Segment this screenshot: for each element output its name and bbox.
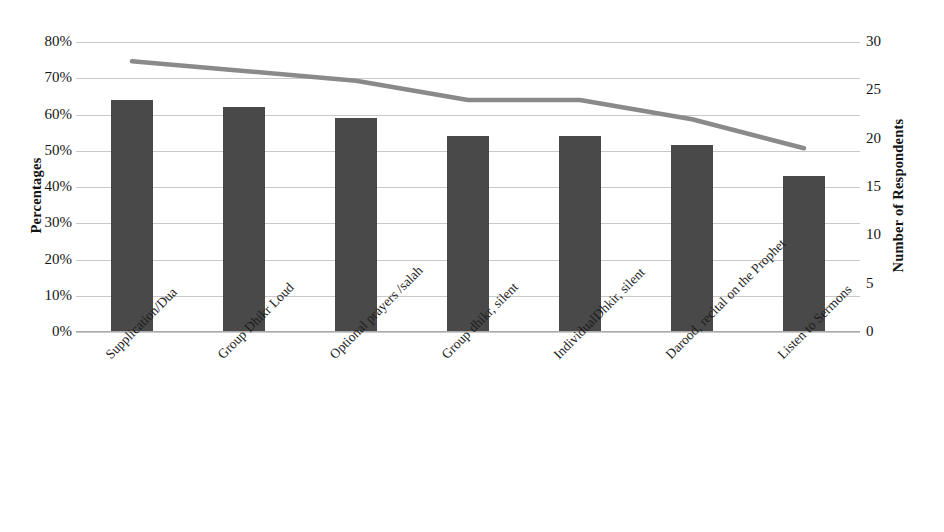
x-axis-category-label: Darood, recital on the Prophet [663,237,788,362]
x-axis-category-label: Group dhikr, silent [439,280,521,362]
x-axis-category-label: IndividualDhkir, silent [551,265,647,361]
x-axis-category-label: Supplication/Dua [103,285,179,361]
x-axis-category-label: Optional prayers /salah [327,263,425,361]
x-axis-category-labels: Supplication/DuaGroup Dhikr LoudOptional… [0,0,944,532]
chart-container: Percentages Number of Respondents 0%10%2… [0,0,944,532]
x-axis-category-label: Group Dhikr Loud [215,280,296,361]
x-axis-category-label: Listen to Sermons [775,283,854,362]
